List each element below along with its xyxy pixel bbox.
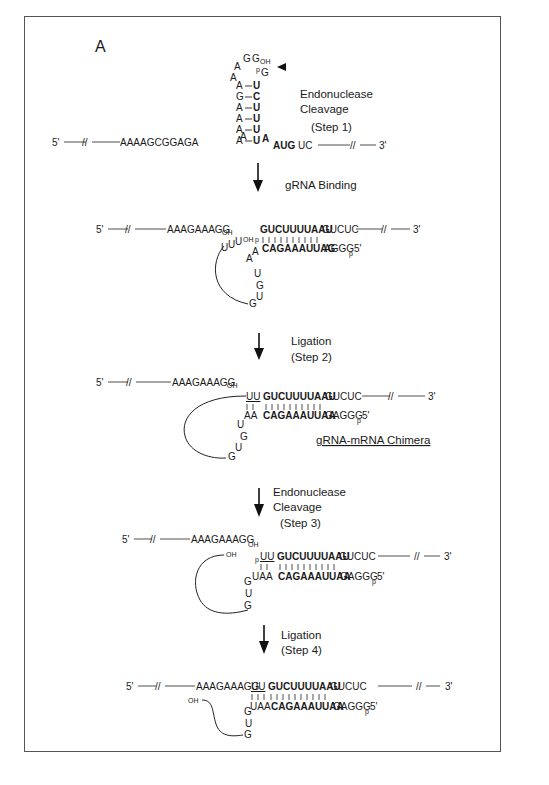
svg-text:A: A <box>234 61 241 72</box>
svg-text:G: G <box>249 298 257 309</box>
svg-text:U: U <box>253 135 260 146</box>
svg-text:A: A <box>252 246 259 257</box>
svg-text:p: p <box>357 417 361 425</box>
step3-label: Endonuclease <box>273 486 346 498</box>
svg-text:GUCUC: GUCUC <box>325 391 362 402</box>
svg-text:A: A <box>236 113 243 124</box>
svg-text:UAA: UAA <box>250 701 271 712</box>
svg-text:G: G <box>236 91 244 102</box>
svg-text://: // <box>381 224 387 235</box>
svg-text:5': 5' <box>370 701 378 712</box>
step4-label: Ligation <box>281 629 321 641</box>
svg-text:U: U <box>245 718 252 729</box>
svg-text://: // <box>125 224 131 235</box>
svg-text://: // <box>388 391 394 402</box>
svg-text:OH: OH <box>243 236 254 243</box>
svg-text:U: U <box>245 588 252 599</box>
svg-text:5': 5' <box>96 224 104 235</box>
svg-text:G: G <box>244 600 252 611</box>
svg-text:A: A <box>246 253 253 264</box>
svg-text:U: U <box>253 80 260 91</box>
svg-text:G: G <box>244 576 252 587</box>
svg-text:GUCUC: GUCUC <box>322 224 359 235</box>
stage3-chimera: 5' // AAAGAAAGG OH UU GUCUUUUAAU GUCUC /… <box>96 377 436 462</box>
svg-text:p: p <box>255 556 259 564</box>
svg-text:U: U <box>256 291 263 302</box>
stage1-hairpin: 5' // AAAAGCGGAGA A A A G G OH p G A G A… <box>52 53 387 151</box>
svg-text:5': 5' <box>122 534 130 545</box>
base-pairs <box>261 564 334 570</box>
svg-text:OH: OH <box>227 382 238 389</box>
rna-editing-diagram: A 5' // AAAAGCGGAGA A A A G G OH p G A G… <box>0 0 549 785</box>
svg-text:UU: UU <box>246 391 260 402</box>
arrow-down-icon <box>254 488 264 517</box>
stem-right: U C U U U U <box>253 80 260 146</box>
svg-text:5': 5' <box>377 571 385 582</box>
svg-text:G: G <box>256 280 264 291</box>
panel-label: A <box>95 38 106 55</box>
svg-text://: // <box>155 681 161 692</box>
svg-text:3': 3' <box>444 551 452 562</box>
svg-text:G: G <box>240 431 248 442</box>
svg-text:G: G <box>261 67 269 78</box>
svg-text://: // <box>414 551 420 562</box>
svg-text:p: p <box>349 250 353 258</box>
stage2-grna-binding: 5' // AAAGAAAGG OH U U U OH p GUCUUUUAAU… <box>96 224 421 309</box>
svg-text:U: U <box>237 419 244 430</box>
svg-text:OH: OH <box>188 697 199 704</box>
svg-text:UAA: UAA <box>252 571 273 582</box>
svg-text:p: p <box>255 236 259 244</box>
svg-text:A: A <box>262 133 269 144</box>
svg-text://: // <box>150 534 156 545</box>
svg-text:GUCUC: GUCUC <box>339 551 376 562</box>
svg-text:G: G <box>243 53 251 64</box>
svg-text:G: G <box>244 729 252 740</box>
svg-text://: // <box>350 140 356 151</box>
svg-text:(Step 3): (Step 3) <box>280 517 321 529</box>
svg-text:A: A <box>236 124 243 135</box>
svg-text:G: G <box>244 706 252 717</box>
svg-text:OH: OH <box>260 58 271 65</box>
svg-text:AA: AA <box>244 410 258 421</box>
step2-label: Ligation <box>291 335 331 347</box>
svg-text:OH: OH <box>226 551 237 558</box>
svg-text:p: p <box>256 66 260 74</box>
svg-text:U: U <box>253 113 260 124</box>
base-pairs <box>252 694 325 700</box>
svg-text:UU: UU <box>251 681 265 692</box>
svg-text:OH: OH <box>222 229 233 236</box>
svg-text:(Step 2): (Step 2) <box>291 351 332 363</box>
svg-text:A: A <box>236 80 243 91</box>
svg-text:Cleavage: Cleavage <box>300 103 349 115</box>
svg-text:3': 3' <box>428 391 436 402</box>
svg-text:3': 3' <box>445 681 453 692</box>
svg-text://: // <box>416 681 422 692</box>
svg-text://: // <box>126 377 132 388</box>
stage4-cleavage: 5' // AAAGAAAGG OH OH p UU GUCUUUUAAU GU… <box>122 534 452 613</box>
svg-text:(Step 4): (Step 4) <box>281 644 322 656</box>
stage5-ligation: 5' // AAAGAAAGG UU GUCUUUUAAU GUCUC // 3… <box>126 681 453 740</box>
svg-text:p: p <box>372 578 376 586</box>
svg-text:5': 5' <box>354 243 362 254</box>
svg-text:U: U <box>253 124 260 135</box>
svg-text:3': 3' <box>379 140 387 151</box>
svg-text:C: C <box>253 91 260 102</box>
step1-label: Endonuclease <box>300 88 373 100</box>
svg-text:AUG: AUG <box>273 140 295 151</box>
svg-text:AAAGAAAGG: AAAGAAAGG <box>191 534 255 545</box>
svg-text:p: p <box>365 708 369 716</box>
svg-text:OH: OH <box>248 541 259 548</box>
svg-text:5': 5' <box>52 137 60 148</box>
svg-text:Cleavage: Cleavage <box>273 501 322 513</box>
svg-text:UU: UU <box>260 551 274 562</box>
svg-text:A: A <box>236 135 243 146</box>
svg-text:G: G <box>228 451 236 462</box>
arrow-down-icon <box>254 333 264 360</box>
svg-text:GUCUC: GUCUC <box>330 681 367 692</box>
svg-text:(Step 1): (Step 1) <box>311 121 352 133</box>
stage1-left-strand: AAAAGCGGAGA <box>120 137 199 148</box>
svg-text:5': 5' <box>362 410 370 421</box>
arrow-down-icon <box>253 163 263 192</box>
svg-text:U: U <box>235 236 242 247</box>
arrow-down-icon <box>259 625 269 654</box>
